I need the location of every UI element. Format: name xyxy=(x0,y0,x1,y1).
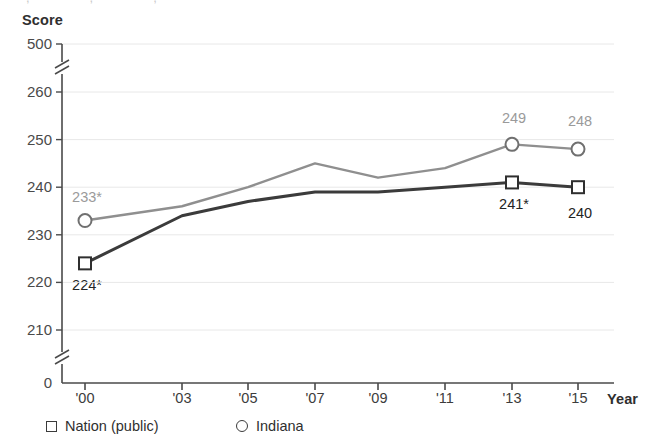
legend-item-nation[interactable]: Nation (public) xyxy=(46,418,159,434)
circle-marker-icon xyxy=(236,420,248,432)
chart-legend: Nation (public) Indiana xyxy=(0,418,649,446)
data-point-marker-circle[interactable] xyxy=(572,143,585,156)
data-point-marker-circle[interactable] xyxy=(506,138,519,151)
plot-area xyxy=(0,0,649,446)
data-point-marker-square[interactable] xyxy=(79,257,91,269)
legend-label-nation: Nation (public) xyxy=(65,418,159,434)
data-point-marker-square[interactable] xyxy=(572,181,584,193)
data-point-marker-square[interactable] xyxy=(506,176,518,188)
data-point-marker-circle[interactable] xyxy=(79,214,92,227)
legend-item-indiana[interactable]: Indiana xyxy=(236,418,304,434)
square-marker-icon xyxy=(46,421,57,432)
line-chart: ,,, Score Year 0210220230240250260500 '0… xyxy=(0,0,649,446)
legend-label-indiana: Indiana xyxy=(256,418,304,434)
series-line-nation xyxy=(85,182,578,263)
